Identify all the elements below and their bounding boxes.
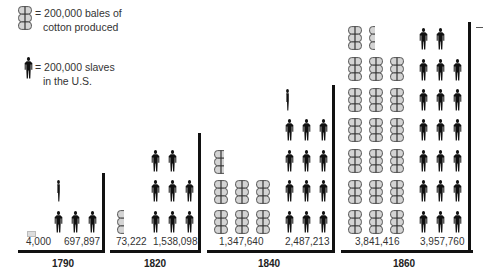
person-icon [419,89,428,111]
cotton-bale-icon [369,149,383,173]
cotton-value-1820: 73,222 [116,236,147,247]
cotton-bale-icon [214,210,228,234]
cotton-bale-partial-icon [117,210,124,234]
person-icon [419,150,428,172]
person-icon [168,180,177,202]
person-icon [319,150,328,172]
cotton-bale-icon [369,57,383,81]
legend-slave-line2: in the U.S. [43,74,92,88]
year-label-1790: 1790 [33,258,93,269]
cotton-bale-icon [348,118,362,142]
person-icon [453,180,462,202]
cotton-bale-icon [256,210,270,234]
person-icon [436,150,445,172]
top-tick-mark [476,27,483,28]
person-icon [453,211,462,233]
person-icon [319,211,328,233]
person-icon [285,119,294,141]
cotton-bale-icon [348,57,362,81]
person-icon [71,211,80,233]
year-label-1840: 1840 [239,258,299,269]
person-icon [419,28,428,50]
person-icon [151,211,160,233]
person-icon [168,150,177,172]
baseline-1820 [110,250,201,253]
cotton-bale-icon [348,180,362,204]
person-icon [319,180,328,202]
person-icon [436,59,445,81]
person-icon [302,180,311,202]
cotton-bale-icon [348,210,362,234]
cotton-value-1860: 3,841,416 [355,236,400,247]
cotton-bale-icon [256,180,270,204]
person-icon [419,211,428,233]
slaves-value-1860: 3,957,760 [420,236,465,247]
slaves-value-1790: 697,897 [64,236,100,247]
cotton-bale-icon [18,5,32,31]
person-icon [319,119,328,141]
person-icon [24,57,33,79]
person-icon [436,28,445,50]
year-label-1860: 1860 [374,258,434,269]
cotton-bale-icon [235,180,249,204]
cotton-bale-icon [369,118,383,142]
frame-right-1820 [198,133,201,253]
baseline-1860 [341,250,473,253]
cotton-bale-icon [390,88,404,112]
person-icon [436,89,445,111]
person-icon [453,59,462,81]
cotton-bale-icon [390,180,404,204]
person-icon [185,180,194,202]
person-icon [419,59,428,81]
cotton-value-1840: 1,347,640 [219,236,264,247]
baseline-1840 [207,250,335,253]
cotton-bale-icon [390,210,404,234]
person-icon [285,211,294,233]
cotton-bale-icon [348,88,362,112]
person-icon [453,89,462,111]
person-icon [185,211,194,233]
person-icon [419,180,428,202]
cotton-bale-icon [390,118,404,142]
person-icon [88,211,97,233]
person-icon [302,211,311,233]
frame-right-1790 [102,173,105,253]
person-icon [419,119,428,141]
legend: = 200,000 bales of cotton produced = 200… [0,0,160,90]
person-icon [436,211,445,233]
year-label-1820: 1820 [125,258,185,269]
person-icon [285,180,294,202]
cotton-bale-partial-icon [369,26,375,50]
legend-slave-line1: = 200,000 slaves [35,60,115,74]
person-icon [453,150,462,172]
person-icon [302,150,311,172]
cotton-bale-icon [390,149,404,173]
cotton-value-1790: 4,000 [26,236,51,247]
person-icon [151,150,160,172]
cotton-bale-icon [390,57,404,81]
person-icon [302,119,311,141]
cotton-bale-partial-icon [214,150,224,174]
frame-right-1860 [468,22,471,253]
person-icon [168,211,177,233]
cotton-bale-icon [235,210,249,234]
person-icon [151,180,160,202]
cotton-bale-icon [348,26,362,50]
person-half-icon [54,180,63,202]
legend-bale-line2: cotton produced [43,20,118,34]
person-half-icon [283,89,292,111]
cotton-bale-icon [214,180,228,204]
legend-bale-line1: = 200,000 bales of [35,6,122,20]
person-icon [285,150,294,172]
cotton-bale-icon [348,149,362,173]
person-icon [436,119,445,141]
baseline-1790 [18,250,105,253]
person-icon [54,211,63,233]
person-icon [453,119,462,141]
cotton-bale-icon [369,88,383,112]
cotton-bale-icon [369,180,383,204]
slaves-value-1840: 2,487,213 [285,236,330,247]
slaves-value-1820: 1,538,098 [153,236,198,247]
person-icon [436,180,445,202]
frame-right-1840 [332,85,335,253]
